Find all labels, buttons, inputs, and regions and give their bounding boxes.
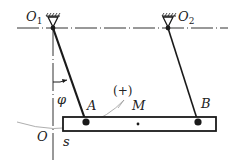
arc-direction-tick [118, 100, 124, 108]
label-m: M [131, 98, 146, 113]
label-o2: O2 [178, 9, 194, 26]
label-a: A [86, 98, 96, 113]
label-phi: φ [57, 92, 67, 107]
label-origin: O [37, 129, 48, 144]
link-o2-b [168, 28, 198, 122]
joint-b [194, 118, 201, 125]
label-s: s [63, 134, 70, 149]
angle-phi-arrowhead [62, 79, 67, 83]
label-positive-direction: (+) [113, 84, 132, 98]
label-o1: O1 [26, 9, 42, 26]
label-b: B [200, 96, 211, 111]
link-o1-a [53, 28, 86, 122]
point-m [137, 123, 140, 126]
mechanism-diagram: O1 O2 φ A M B (+) O s [0, 0, 238, 164]
joint-a [82, 118, 89, 125]
